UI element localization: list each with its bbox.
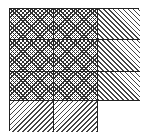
pattern-grid <box>9 8 139 131</box>
grid-cell-fwd-hatch <box>10 101 54 132</box>
grid-cell-back-hatch <box>98 40 140 72</box>
grid-cell-crosshatch <box>54 40 98 72</box>
grid-cell-blank <box>98 101 140 132</box>
grid-cell-back-hatch <box>98 72 140 101</box>
grid-cell-back-hatch <box>98 9 140 40</box>
grid-cell-crosshatch <box>54 72 98 101</box>
grid-cell-crosshatch <box>54 9 98 40</box>
grid-cell-fwd-hatch <box>54 101 98 132</box>
grid-cell-crosshatch <box>10 40 54 72</box>
grid-cell-crosshatch <box>10 72 54 101</box>
grid-cell-crosshatch <box>10 9 54 40</box>
